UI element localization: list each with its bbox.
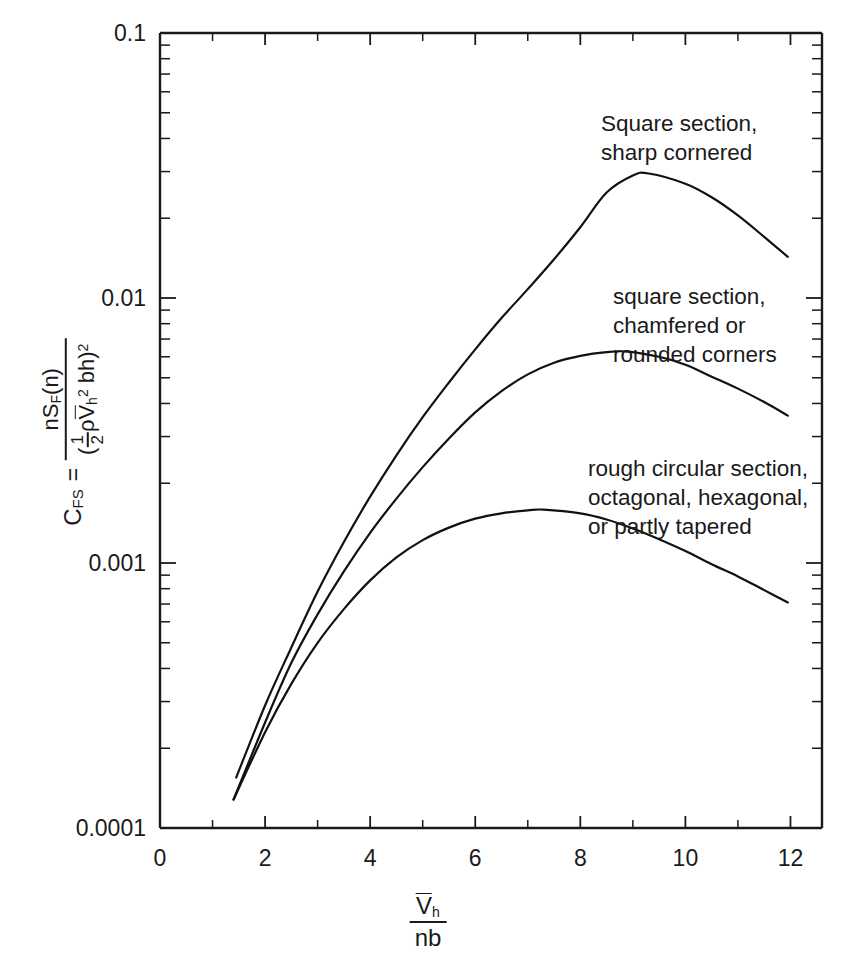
series-curve-1: [234, 351, 788, 799]
v-overbar: V: [75, 405, 98, 420]
annotation-square-sharp: Square section, sharp cornered: [601, 110, 757, 168]
y-tick-label: 0.1: [114, 20, 146, 46]
x-tick-label: 8: [574, 845, 587, 871]
x-axis-denominator: nb: [410, 923, 447, 951]
x-tick-label: 12: [778, 845, 804, 871]
x-tick-label: 2: [259, 845, 272, 871]
annotation-rough-circular: rough circular section, octagonal, hexag…: [588, 455, 808, 541]
chart-figure: 0246810120.10.010.0010.0001 CFS = nSF(n)…: [0, 0, 856, 975]
vh-overbar: V: [416, 893, 432, 918]
series-curve-2: [234, 509, 788, 799]
x-tick-label: 6: [469, 845, 482, 871]
y-axis-symbol: CFS: [59, 489, 87, 526]
x-axis-title: Vh nb: [410, 893, 447, 951]
y-tick-label: 0.0001: [76, 815, 146, 841]
x-axis-numerator: Vh: [411, 893, 445, 921]
x-tick-label: 10: [673, 845, 699, 871]
annotation-square-chamfered: square section, chamfered or rounded cor…: [613, 283, 777, 369]
y-axis-numerator: nSF(n): [39, 363, 65, 435]
x-axis-fraction: Vh nb: [410, 893, 447, 951]
x-tick-label: 4: [364, 845, 377, 871]
y-axis-denominator: (12ρVh2 bh)2: [67, 339, 108, 460]
one-half-fraction: 12: [69, 432, 108, 447]
y-axis-fraction: nSF(n) (12ρVh2 bh)2: [39, 339, 107, 460]
y-tick-label: 0.01: [101, 285, 146, 311]
y-axis-title: CFS = nSF(n) (12ρVh2 bh)2: [39, 297, 107, 567]
x-tick-label: 0: [154, 845, 167, 871]
y-axis-equals: =: [59, 466, 86, 483]
